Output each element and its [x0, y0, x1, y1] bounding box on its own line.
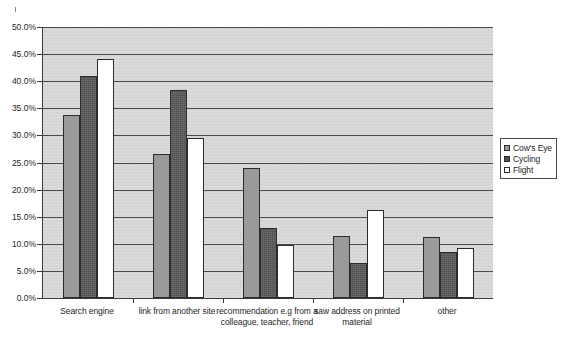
x-axis-tick-mark — [133, 298, 134, 303]
y-axis-tick-label: 15.0% — [0, 212, 36, 222]
y-axis-tick-label: 35.0% — [0, 103, 36, 113]
bar — [243, 168, 260, 298]
bar — [153, 154, 170, 298]
chart-legend: Cow's Eye Cycling Flight — [500, 138, 557, 179]
x-axis-category-label: recommendation e.g from a colleague, tea… — [215, 306, 319, 328]
bar — [457, 248, 474, 298]
x-axis-category-label: link from another site — [125, 306, 229, 317]
bar — [187, 138, 204, 298]
bar — [170, 90, 187, 298]
bar-chart: 0.0%5.0%10.0%15.0%20.0%25.0%30.0%35.0%40… — [0, 0, 566, 348]
legend-item-0[interactable]: Cow's Eye — [504, 142, 552, 153]
y-axis-tick-label: 20.0% — [0, 185, 36, 195]
y-axis-tick-label: 45.0% — [0, 49, 36, 59]
bar — [63, 115, 80, 298]
bar — [440, 252, 457, 298]
bar — [333, 236, 350, 298]
gridline — [43, 54, 493, 55]
y-axis-tick-label: 50.0% — [0, 22, 36, 32]
y-axis-tick-label: 40.0% — [0, 76, 36, 86]
x-axis-category-label: other — [395, 306, 499, 317]
x-axis-category-label: saw address on printed material — [305, 306, 409, 328]
scan-speck — [15, 7, 16, 12]
x-axis-tick-mark — [313, 298, 314, 303]
y-axis-tick-label: 25.0% — [0, 158, 36, 168]
bar — [350, 263, 367, 298]
plot-area — [42, 27, 493, 299]
legend-swatch-icon-cycling — [504, 156, 510, 162]
bar — [367, 210, 384, 298]
y-axis-tick-label: 30.0% — [0, 130, 36, 140]
x-axis-category-label: Search engine — [35, 306, 139, 317]
y-axis-tick-label: 5.0% — [0, 266, 36, 276]
legend-item-2[interactable]: Flight — [504, 164, 552, 175]
x-axis-tick-mark — [223, 298, 224, 303]
gridline — [43, 27, 493, 28]
bar — [97, 59, 114, 298]
legend-swatch-icon-flight — [504, 167, 510, 173]
x-axis-tick-mark — [403, 298, 404, 303]
bar — [80, 76, 97, 298]
legend-label-cows-eye: Cow's Eye — [513, 143, 552, 153]
bar — [423, 237, 440, 298]
y-axis-tick-label: 0.0% — [0, 293, 36, 303]
bar — [277, 245, 294, 298]
legend-label-cycling: Cycling — [513, 154, 540, 164]
legend-item-1[interactable]: Cycling — [504, 153, 552, 164]
bar — [260, 228, 277, 298]
y-axis-tick-label: 10.0% — [0, 239, 36, 249]
legend-label-flight: Flight — [513, 165, 533, 175]
legend-swatch-icon-cows-eye — [504, 145, 510, 151]
